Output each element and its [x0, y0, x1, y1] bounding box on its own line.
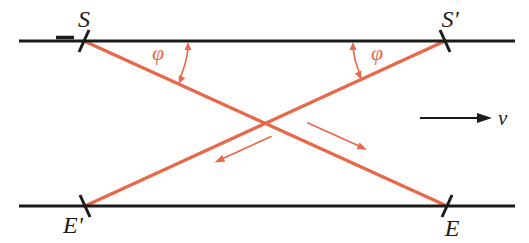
label-s: S — [78, 6, 90, 32]
angle-arc-right — [353, 49, 359, 73]
angle-arc-right-up-arrowhead — [350, 42, 357, 50]
direction-arrow-right-head — [357, 143, 367, 150]
angle-arc-left-down-arrowhead — [179, 75, 186, 84]
direction-arrow-right-shaft — [308, 123, 358, 146]
label-phi-left: φ — [152, 40, 164, 65]
direction-arrow-left-head — [215, 155, 226, 163]
black-arrowheads — [477, 113, 492, 123]
label-sprime: S' — [441, 6, 459, 32]
orange-arrowheads — [179, 42, 367, 162]
angle-arc-left — [181, 49, 189, 77]
label-eprime: E' — [62, 212, 84, 238]
label-e: E — [444, 215, 460, 241]
label-phi-right: φ — [371, 40, 383, 65]
velocity-arrowhead — [477, 113, 492, 123]
light-ray-diagram: S S' E' E v φ φ — [0, 0, 529, 243]
angle-arc-left-up-arrowhead — [185, 42, 192, 50]
light-rays — [84, 41, 447, 206]
label-velocity: v — [498, 106, 508, 130]
thin-orange-strokes — [181, 49, 360, 159]
